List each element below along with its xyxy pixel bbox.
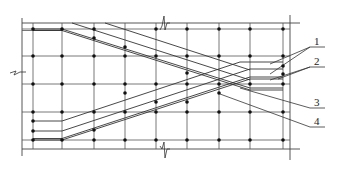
- bottom-break-icon: [160, 142, 170, 158]
- grid-columns: [33, 23, 283, 149]
- lower-bent-bars: [33, 62, 283, 140]
- upper-bent-bars: [33, 23, 283, 90]
- label-3: 3: [314, 96, 320, 108]
- label-2: 2: [314, 55, 320, 67]
- leader-lines: [220, 47, 325, 127]
- rebar-diagram: 1 2 3 4: [0, 0, 340, 171]
- label-4: 4: [314, 115, 320, 127]
- grid-nodes: [31, 27, 285, 142]
- label-1: 1: [314, 35, 320, 47]
- break-symbols: [10, 16, 170, 158]
- left-break-icon: [10, 71, 26, 75]
